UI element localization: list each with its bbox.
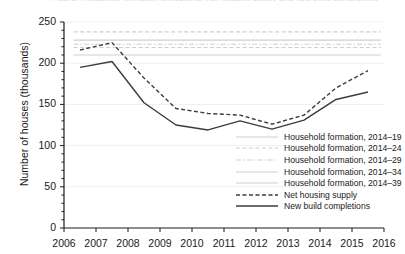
legend-item-label: Household formation, 2014–34	[284, 167, 402, 177]
legend-item[interactable]: Household formation, 2014–39	[236, 177, 402, 189]
legend-item[interactable]: Household formation, 2014–34	[236, 166, 402, 178]
legend-line-swatch	[236, 167, 278, 177]
legend-item-label: Household formation, 2014–39	[284, 178, 402, 188]
legend-line-swatch	[236, 190, 278, 200]
chart-figure: Figure: Household formation projections,…	[0, 0, 405, 254]
legend-line-swatch	[236, 155, 278, 165]
legend-item[interactable]: Household formation, 2014–19	[236, 131, 402, 143]
legend-line-swatch	[236, 143, 278, 153]
legend-item[interactable]: Household formation, 2014–29	[236, 154, 402, 166]
legend-item[interactable]: Household formation, 2014–24	[236, 143, 402, 155]
legend-item-label: New build completions	[284, 201, 370, 211]
legend-item-label: Household formation, 2014–29	[284, 155, 402, 165]
legend-line-swatch	[236, 178, 278, 188]
series-line-1	[80, 62, 368, 130]
legend-item-label: Household formation, 2014–24	[284, 143, 402, 153]
legend-item[interactable]: New build completions	[236, 201, 402, 213]
chart-legend: Household formation, 2014–19Household fo…	[236, 131, 402, 212]
plot-canvas	[0, 0, 405, 254]
legend-line-swatch	[236, 201, 278, 211]
legend-item-label: Household formation, 2014–19	[284, 132, 402, 142]
legend-line-swatch	[236, 132, 278, 142]
legend-item-label: Net housing supply	[284, 190, 357, 200]
legend-item[interactable]: Net housing supply	[236, 189, 402, 201]
